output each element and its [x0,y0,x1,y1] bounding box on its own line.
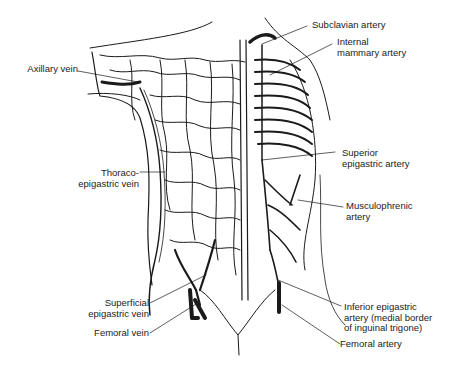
label-line: Inferior epigastric [344,302,432,313]
label-line: Femoral artery [340,339,402,350]
label-line: Musculophrenic [346,201,413,212]
label-line: Internal [337,37,406,48]
label-subclavian-artery: Subclavian artery [312,20,385,31]
label-thoracoepigastric-vein: Thoraco- epigastric vein [50,168,139,189]
label-line: Subclavian artery [312,20,385,31]
label-line: Thoraco- [50,168,139,179]
label-line: epigastric artery [342,159,410,170]
label-musculophrenic-artery: Musculophrenic artery [346,201,413,222]
label-femoral-vein: Femoral vein [60,328,149,339]
label-line: epigastric vein [60,309,149,320]
label-internal-mammary-artery: Internal mammary artery [337,37,406,58]
label-line: Superior [342,148,410,159]
label-femoral-artery: Femoral artery [340,339,402,350]
label-inferior-epigastric-artery: Inferior epigastric artery (medial borde… [344,302,432,334]
label-line: artery [346,212,413,223]
label-line: epigastric vein [50,179,139,190]
label-line: of inguinal trigone) [344,323,432,334]
label-superior-epigastric-artery: Superior epigastric artery [342,148,410,169]
label-superficial-epigastric-vein: Superficial epigastric vein [60,298,149,319]
label-line: Superficial [60,298,149,309]
label-axillary-vein: Axillary vein [14,64,78,75]
label-line: Axillary vein [14,64,78,75]
anatomy-diagram: Axillary vein Thoraco- epigastric vein S… [0,0,457,366]
label-line: Femoral vein [60,328,149,339]
label-line: mammary artery [337,48,406,59]
